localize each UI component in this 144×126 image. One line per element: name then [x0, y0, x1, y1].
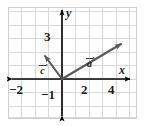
y-tick-label-neg1: −1	[41, 88, 55, 101]
vector-a-letter: a	[86, 59, 93, 69]
x-tick-label-neg2: −2	[9, 83, 23, 96]
vector-diagram-figure: 3 −1 −2 2 4 x y a c	[0, 0, 144, 126]
y-axis-label: y	[66, 7, 71, 19]
vector-a-label: a	[86, 58, 93, 69]
x-axis-label: x	[119, 64, 125, 76]
x-tick-label-2: 2	[81, 83, 88, 96]
y-tick-label-3: 3	[44, 30, 51, 43]
vector-c-letter: c	[39, 66, 46, 76]
vector-c-label: c	[39, 65, 46, 76]
x-tick-label-4: 4	[108, 83, 115, 96]
